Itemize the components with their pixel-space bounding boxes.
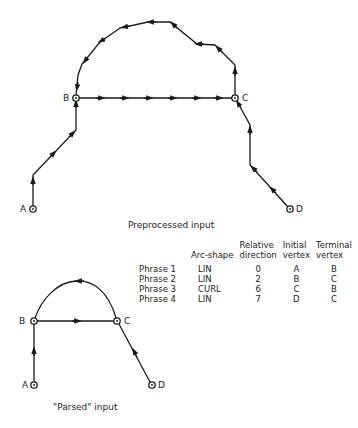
vertex-label-a-parsed: A	[22, 380, 28, 390]
phrase-table: Arc-shape Relativedirection Initialverte…	[136, 240, 355, 304]
table-row: Phrase 4 LIN 7 D C	[136, 294, 355, 304]
vertex-b-parsed	[31, 318, 37, 324]
arc-shape: LIN	[188, 294, 237, 304]
header-initial-vertex: Initialvertex	[280, 240, 313, 264]
vertex-a-parsed	[31, 382, 37, 388]
vertex-label-d-top: D	[296, 204, 303, 214]
table-row: Phrase 3 CURL 6 C B	[136, 284, 355, 294]
vertex-label-c-parsed: C	[124, 316, 130, 326]
arc-shape: LIN	[188, 274, 237, 284]
arc-shape: CURL	[188, 284, 237, 294]
preprocessed-caption: Preprocessed input	[128, 220, 214, 230]
phrase-label: Phrase 3	[136, 284, 188, 294]
phrase-label: Phrase 1	[136, 264, 188, 274]
vertex-b-top	[73, 95, 79, 101]
header-phrase	[136, 240, 188, 264]
relative-direction: 0	[237, 264, 280, 274]
initial-vertex: D	[280, 294, 313, 304]
header-relative-direction: Relativedirection	[237, 240, 280, 264]
initial-vertex: A	[280, 264, 313, 274]
path-c-to-b-curl	[76, 22, 235, 95]
vertex-c-parsed	[114, 318, 120, 324]
vertex-label-d-parsed: D	[158, 380, 165, 390]
initial-vertex: B	[280, 274, 313, 284]
vertex-c-top	[232, 95, 238, 101]
vertex-d-parsed	[149, 382, 155, 388]
vertex-label-b-top: B	[63, 93, 69, 103]
path-d-to-c	[237, 101, 288, 207]
path-a-to-b	[33, 98, 76, 209]
preprocessed-diagram	[0, 0, 358, 428]
arc-shape: LIN	[188, 264, 237, 274]
vertex-d-top	[287, 206, 293, 212]
phrase-label: Phrase 2	[136, 274, 188, 284]
terminal-vertex: C	[313, 274, 355, 284]
table-row: Phrase 2 LIN 2 B C	[136, 274, 355, 284]
parsed-caption: "Parsed" input	[53, 402, 117, 412]
vertex-label-c-top: C	[242, 93, 248, 103]
relative-direction: 6	[237, 284, 280, 294]
relative-direction: 2	[237, 274, 280, 284]
vertex-a-top	[30, 206, 36, 212]
header-arc-shape: Arc-shape	[188, 240, 237, 264]
vertex-label-a-top: A	[20, 204, 26, 214]
table-row: Phrase 1 LIN 0 A B	[136, 264, 355, 274]
table-header-row: Arc-shape Relativedirection Initialverte…	[136, 240, 355, 264]
vertex-label-b-parsed: B	[19, 316, 25, 326]
terminal-vertex: B	[313, 284, 355, 294]
initial-vertex: C	[280, 284, 313, 294]
header-terminal-vertex: Terminalvertex	[313, 240, 355, 264]
terminal-vertex: C	[313, 294, 355, 304]
phrase-label: Phrase 4	[136, 294, 188, 304]
relative-direction: 7	[237, 294, 280, 304]
parsed-edge-c-b-curl	[35, 281, 116, 318]
parsed-diagram	[34, 281, 150, 382]
terminal-vertex: B	[313, 264, 355, 274]
